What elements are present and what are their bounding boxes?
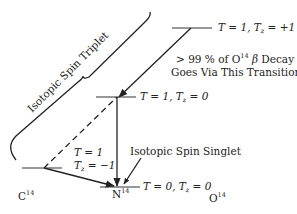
singlet-label: Isotopic Spin Singlet [130,145,242,157]
triplet-brace-label: Isotopic Spin Triplet [25,28,111,114]
level-n14-ground-label: T = 0, Tz = 0 [143,180,212,194]
nuclide-c14: C14 [18,189,34,202]
decay-annotation-line1: > 99 % of O14 β Decay [176,52,294,65]
nuclide-o14: O14 [209,191,226,204]
decay-annotation-line2: Goes Via This Transition [171,66,297,78]
level-n14-excited-label: T = 1, Tz = 0 [140,90,209,104]
nuclide-n14: N14 [112,187,129,200]
level-o14-label: T = 1, Tz = +1 [218,21,295,35]
level-c14-label-t: T = 1 [74,146,103,158]
isospin-diagram: Isotopic Spin Triplet T = 1, Tz = +1 > 9… [0,0,297,214]
triplet-brace [11,12,151,160]
level-c14-label-tz: Tz = −1 [74,159,115,173]
singlet-pointer-arrow [124,158,141,184]
